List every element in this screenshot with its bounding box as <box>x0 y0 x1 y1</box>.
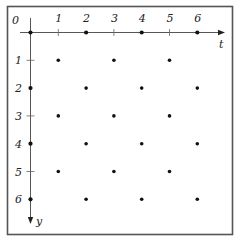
y-tick-label: 3 <box>15 110 22 123</box>
lattice-point <box>112 170 116 174</box>
lattice-point <box>168 114 172 118</box>
lattice-point <box>57 170 61 174</box>
y-axis-label: y <box>35 215 43 228</box>
t-tick-label: 1 <box>55 12 62 25</box>
lattice-point <box>196 86 200 90</box>
lattice-point <box>28 142 32 146</box>
y-axis: y <box>28 18 43 228</box>
lattice-point <box>57 59 61 63</box>
lattice-point <box>140 198 144 202</box>
lattice-point <box>168 170 172 174</box>
t-tick-label: 2 <box>82 12 90 25</box>
lattice-point <box>140 30 144 34</box>
origin-label: 0 <box>12 14 19 27</box>
t-tick-label: 5 <box>167 12 174 25</box>
lattice-point <box>28 30 32 34</box>
t-tick-label: 3 <box>111 12 118 25</box>
lattice-point <box>57 114 61 118</box>
y-axis-ticks: 123456 <box>14 54 35 206</box>
y-tick-label: 6 <box>15 193 22 206</box>
y-tick-label: 1 <box>15 54 22 67</box>
lattice-point <box>28 197 32 201</box>
lattice-point <box>84 198 88 202</box>
y-tick-label: 4 <box>14 138 22 151</box>
lattice-point <box>112 59 116 63</box>
t-axis: t <box>20 30 225 51</box>
lattice-point <box>168 59 172 63</box>
lattice-point <box>196 198 200 202</box>
t-tick-label: 4 <box>138 12 146 25</box>
lattice-point <box>140 142 144 146</box>
y-axis-arrow-icon <box>28 217 33 224</box>
lattice-point <box>112 114 116 118</box>
t-tick-label: 6 <box>194 12 201 25</box>
lattice-point <box>195 30 199 34</box>
lattice-point <box>84 142 88 146</box>
lattice-points <box>28 30 199 201</box>
lattice-point <box>84 86 88 90</box>
t-axis-label: t <box>219 38 224 51</box>
lattice-point <box>140 86 144 90</box>
t-axis-arrow-icon <box>218 30 225 35</box>
y-tick-label: 2 <box>14 82 22 95</box>
y-tick-label: 5 <box>15 166 22 179</box>
lattice-point <box>84 30 88 34</box>
lattice-point <box>196 142 200 146</box>
lattice-point <box>28 86 32 90</box>
lattice-diagram: t y 0 123456 123456 <box>0 0 238 239</box>
